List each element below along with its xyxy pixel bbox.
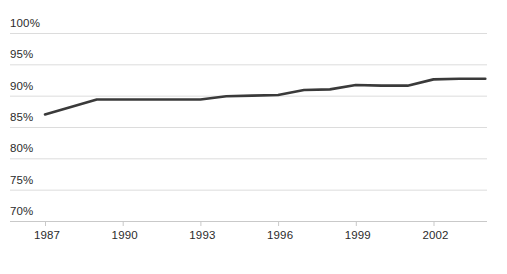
x-axis-tick-label: 1993 [189,229,215,241]
y-axis-tick-label: 70% [10,205,33,217]
y-axis-tick-label: 95% [10,48,33,60]
y-axis-tick-label: 90% [10,80,33,92]
x-axis-tick-label: 1987 [34,229,60,241]
x-axis-tick-label: 1996 [267,229,293,241]
y-axis-tick-label: 85% [10,111,33,123]
line-chart: 100%95%90%85%80%75%70% 19871990199319961… [0,0,507,274]
x-axis-tick-label: 1999 [345,229,371,241]
y-axis-tick-label: 80% [10,142,33,154]
y-axis-tick-label: 100% [10,17,40,29]
y-axis-tick-label: 75% [10,174,33,186]
x-axis-tick-label: 1990 [112,229,138,241]
x-axis-tick-label: 2002 [422,229,448,241]
